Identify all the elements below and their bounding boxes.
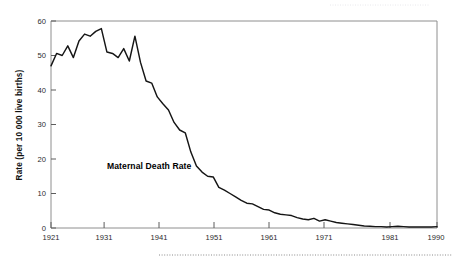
x-tick-label: 1990 [428, 233, 445, 242]
y-tick-label: 60 [38, 17, 46, 26]
y-tick-label: 30 [38, 120, 46, 129]
x-tick-label: 1961 [261, 233, 278, 242]
chart-background [0, 0, 454, 266]
x-tick-label: 1931 [96, 233, 113, 242]
y-tick-label: 10 [38, 189, 46, 198]
y-tick-label: 40 [38, 86, 46, 95]
x-tick-label: 1981 [382, 233, 399, 242]
x-tick-label: 1971 [316, 233, 333, 242]
y-axis-title: Rate (per 10 000 live births) [15, 69, 24, 180]
y-tick-label: 50 [38, 51, 46, 60]
y-tick-label: 0 [42, 224, 46, 233]
series-annotation-label: Maternal Death Rate [107, 161, 192, 171]
y-tick-label: 20 [38, 155, 46, 164]
maternal-death-rate-line-chart: 0 10 20 30 40 50 60 1921 1931 1941 1951 … [0, 0, 454, 266]
chart-figure: 0 10 20 30 40 50 60 1921 1931 1941 1951 … [0, 0, 454, 266]
x-tick-label: 1941 [151, 233, 168, 242]
x-tick-label: 1921 [43, 233, 60, 242]
x-tick-label: 1951 [206, 233, 223, 242]
